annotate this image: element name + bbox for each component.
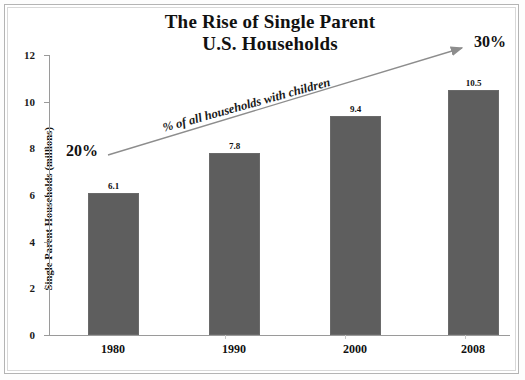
bar-1980[interactable]: 6.1 bbox=[88, 193, 139, 335]
trend-start-percent: 20% bbox=[66, 142, 98, 160]
trend-end-percent: 30% bbox=[474, 33, 506, 51]
x-tick-separator-3 bbox=[465, 335, 466, 339]
y-tick-10: 10 bbox=[44, 102, 49, 103]
x-axis-label-2008: 2008 bbox=[461, 342, 485, 357]
x-axis-label-1990: 1990 bbox=[222, 342, 246, 357]
y-tick-12: 12 bbox=[44, 55, 49, 56]
bar-value-2000: 9.4 bbox=[350, 104, 361, 114]
bar-value-1990: 7.8 bbox=[229, 141, 240, 151]
y-tick-label-0: 0 bbox=[30, 329, 36, 341]
chart-title-line-2: U.S. Households bbox=[60, 33, 480, 55]
y-tick-8: 8 bbox=[44, 148, 49, 149]
bar-value-2008: 10.5 bbox=[466, 78, 482, 88]
y-tick-2: 2 bbox=[44, 288, 49, 289]
bar-1990[interactable]: 7.8 bbox=[209, 153, 260, 335]
y-tick-label-8: 8 bbox=[30, 142, 36, 154]
bar-value-1980: 6.1 bbox=[108, 181, 119, 191]
y-tick-label-12: 12 bbox=[24, 49, 35, 61]
bar-2008[interactable]: 10.5 bbox=[448, 90, 499, 335]
y-tick-4: 4 bbox=[44, 242, 49, 243]
x-tick-separator-2 bbox=[345, 335, 346, 339]
x-axis-label-1980: 1980 bbox=[101, 342, 125, 357]
chart-title: The Rise of Single Parent U.S. Household… bbox=[60, 11, 480, 55]
x-tick-separator-1 bbox=[225, 335, 226, 339]
x-axis-line bbox=[49, 335, 510, 336]
bar-2000[interactable]: 9.4 bbox=[330, 116, 381, 335]
chart-title-line-1: The Rise of Single Parent bbox=[165, 11, 375, 32]
y-tick-label-6: 6 bbox=[30, 189, 36, 201]
y-tick-label-10: 10 bbox=[24, 96, 35, 108]
y-tick-6: 6 bbox=[44, 195, 49, 196]
y-tick-0: 0 bbox=[44, 335, 49, 336]
chart-screenshot: The Rise of Single Parent U.S. Household… bbox=[0, 0, 525, 380]
y-tick-label-4: 4 bbox=[30, 236, 36, 248]
x-axis-label-2000: 2000 bbox=[343, 342, 367, 357]
y-tick-label-2: 2 bbox=[30, 282, 36, 294]
y-axis-line bbox=[49, 55, 50, 335]
